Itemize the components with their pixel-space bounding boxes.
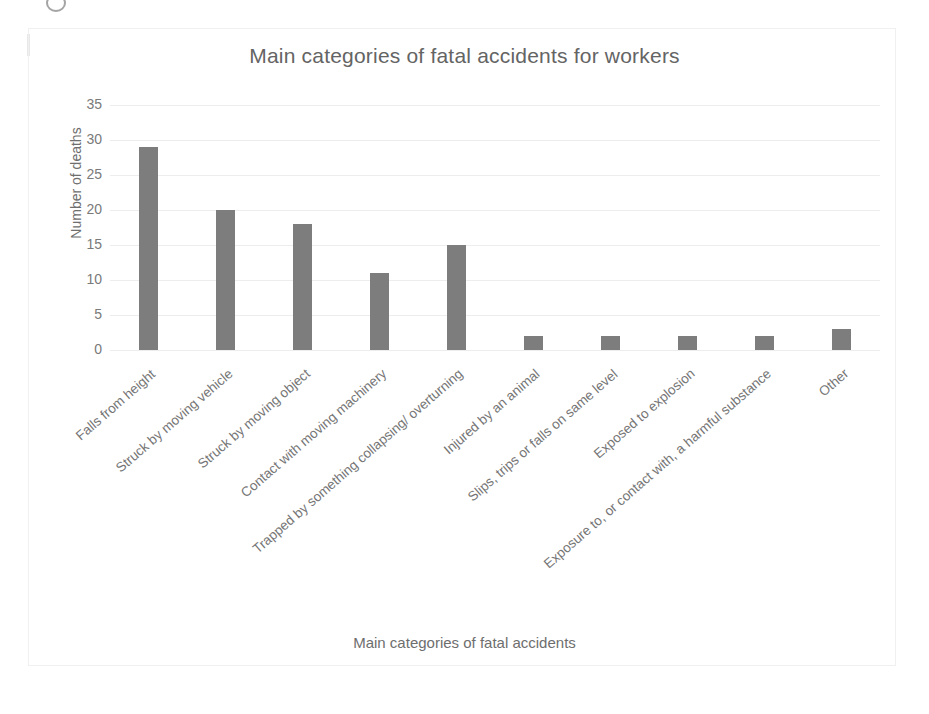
bar[interactable] — [216, 210, 235, 350]
y-axis-tick-labels: 35302520151050 — [62, 105, 102, 350]
bar[interactable] — [832, 329, 851, 350]
bar[interactable] — [678, 336, 697, 350]
bar[interactable] — [293, 224, 312, 350]
gridline — [110, 140, 880, 141]
bar[interactable] — [601, 336, 620, 350]
bar[interactable] — [755, 336, 774, 350]
gridline — [110, 175, 880, 176]
y-axis-tick-label: 30 — [62, 131, 102, 147]
scan-artifact-glyph — [46, 0, 66, 12]
gridline — [110, 105, 880, 106]
x-axis-title: Main categories of fatal accidents — [0, 634, 929, 651]
y-axis-tick-label: 10 — [62, 271, 102, 287]
y-axis-tick-label: 0 — [62, 341, 102, 357]
bar[interactable] — [447, 245, 466, 350]
y-axis-tick-label: 5 — [62, 306, 102, 322]
plot-area — [110, 105, 880, 350]
y-axis-tick-label: 35 — [62, 96, 102, 112]
bar[interactable] — [524, 336, 543, 350]
chart-title: Main categories of fatal accidents for w… — [0, 44, 929, 68]
y-axis-tick-label: 25 — [62, 166, 102, 182]
bar[interactable] — [139, 147, 158, 350]
gridline — [110, 350, 880, 351]
y-axis-tick-label: 20 — [62, 201, 102, 217]
bar[interactable] — [370, 273, 389, 350]
y-axis-tick-label: 15 — [62, 236, 102, 252]
